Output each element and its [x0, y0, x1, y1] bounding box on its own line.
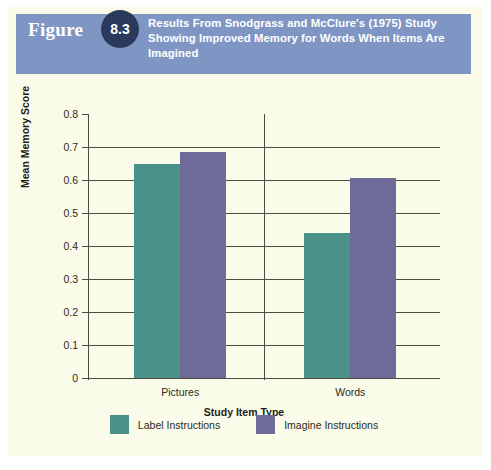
- y-axis-tick: [82, 345, 88, 346]
- y-axis-tick: [82, 246, 88, 247]
- y-axis-tick-label: 0.5: [52, 207, 78, 219]
- y-axis-tick-label: 0.7: [52, 141, 78, 153]
- figure-title: Results From Snodgrass and McClure's (19…: [148, 16, 460, 62]
- legend-swatch: [110, 415, 129, 434]
- y-axis-tick: [82, 279, 88, 280]
- y-axis-tick: [82, 180, 88, 181]
- page-margin-right: [483, 0, 491, 470]
- y-axis-tick: [82, 213, 88, 214]
- y-axis-tick-label: 0.8: [52, 108, 78, 120]
- y-axis-title: Mean Memory Score: [19, 86, 31, 188]
- bar: [180, 152, 226, 378]
- x-axis-tick-label: Words: [290, 386, 410, 398]
- y-axis-tick: [82, 378, 88, 379]
- y-axis-tick: [82, 312, 88, 313]
- bar: [350, 178, 396, 378]
- y-axis-tick-label: 0.6: [52, 174, 78, 186]
- y-axis-tick-label: 0.2: [52, 306, 78, 318]
- y-axis-tick: [82, 114, 88, 115]
- gridline: [88, 147, 440, 148]
- y-axis-tick-label: 0.4: [52, 240, 78, 252]
- figure-label: Figure: [28, 19, 83, 41]
- chart-legend: Label InstructionsImagine Instructions: [25, 415, 463, 434]
- x-axis-tick-label: Pictures: [120, 386, 240, 398]
- legend-entry: Label Instructions: [110, 415, 220, 434]
- legend-swatch: [256, 415, 275, 434]
- page-margin-left: [0, 0, 8, 470]
- chart-panel: Mean Memory Score 0.80.70.60.50.40.30.20…: [25, 88, 463, 428]
- bar: [134, 164, 180, 379]
- y-axis-tick-label: 0: [52, 372, 78, 384]
- legend-label: Imagine Instructions: [284, 419, 378, 431]
- figure-container: Figure 8.3 Results From Snodgrass and Mc…: [0, 0, 491, 470]
- bar: [304, 233, 350, 378]
- y-axis-tick-label: 0.1: [52, 339, 78, 351]
- figure-number-badge: 8.3: [101, 10, 139, 48]
- page-margin-bottom: [0, 456, 491, 470]
- page-margin-top: [0, 0, 491, 7]
- y-axis-tick: [82, 147, 88, 148]
- plot-area: 0.80.70.60.50.40.30.20.10: [88, 114, 440, 378]
- y-axis-tick-label: 0.3: [52, 273, 78, 285]
- legend-entry: Imagine Instructions: [256, 415, 378, 434]
- legend-label: Label Instructions: [138, 419, 220, 431]
